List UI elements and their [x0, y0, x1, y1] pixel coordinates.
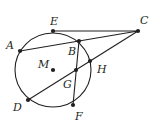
- label-d: D: [12, 101, 22, 114]
- point-d: [26, 98, 30, 102]
- point-h: [88, 59, 92, 63]
- point-f: [71, 103, 75, 107]
- label-h: H: [96, 63, 107, 76]
- label-e: E: [49, 15, 58, 28]
- point-m: [51, 68, 55, 72]
- label-g: G: [63, 78, 72, 91]
- point-a: [18, 49, 22, 53]
- label-c: C: [140, 14, 149, 27]
- point-b: [77, 39, 81, 43]
- geometry-figure: ECABMGHDF: [0, 0, 153, 125]
- label-a: A: [5, 39, 14, 52]
- point-c: [136, 29, 140, 33]
- label-f: F: [74, 110, 83, 123]
- label-b: B: [67, 45, 76, 58]
- point-e: [51, 29, 55, 33]
- label-m: M: [37, 58, 50, 71]
- point-g: [74, 68, 78, 72]
